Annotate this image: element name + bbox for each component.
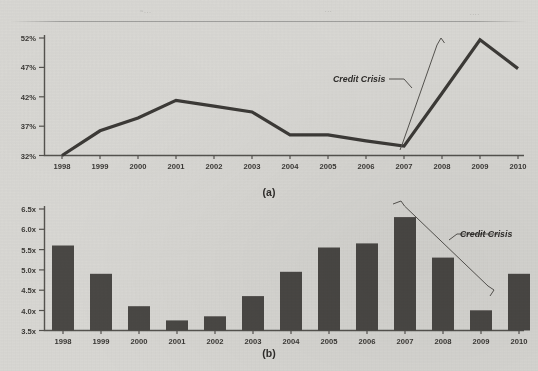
x-tick-label-b-2005: 2005 <box>321 337 339 346</box>
bar-2008 <box>432 258 454 331</box>
x-tick-label-a-1998: 1998 <box>54 162 71 171</box>
y-axis-labels-b: 6.5x 6.0x 5.5x 5.0x 4.5x 4.0x 3.5x <box>21 205 37 336</box>
x-tick-label-b-2008: 2008 <box>435 337 452 346</box>
x-tick-label-b-1999: 1999 <box>93 337 110 346</box>
y-tick-label-a-32: 32% <box>21 152 36 161</box>
bar-1999 <box>90 274 112 331</box>
x-tick-label-a-2000: 2000 <box>130 162 147 171</box>
x-tick-label-a-2004: 2004 <box>282 162 300 171</box>
scan-artifact-1: ~... <box>140 8 152 14</box>
credit-crisis-label-a: Credit Crisis <box>333 74 385 84</box>
bar-2002 <box>204 316 226 330</box>
bar-2009 <box>470 310 492 330</box>
chart-panel-a: 52% 47% 42% 37% 32% 1998 1999 2000 <box>0 22 538 186</box>
bar-2001 <box>166 320 188 330</box>
credit-crisis-label-b: Credit Crisis <box>460 229 512 239</box>
data-line-series-a <box>62 40 518 156</box>
y-tick-label-b-40: 4.0x <box>21 307 37 316</box>
bar-chart-b: 6.5x 6.0x 5.5x 5.0x 4.5x 4.0x 3.5x <box>0 190 538 350</box>
y-tick-label-b-45: 4.5x <box>21 286 37 295</box>
axis-lines-a <box>45 35 525 156</box>
x-axis-labels-b: 1998 1999 2000 2001 2002 2003 2004 2005 … <box>55 337 528 346</box>
chart-panel-b: 6.5x 6.0x 5.5x 5.0x 4.5x 4.0x 3.5x <box>0 190 538 371</box>
credit-crisis-annotation-a: Credit Crisis <box>333 38 445 150</box>
x-tick-label-b-1998: 1998 <box>55 337 72 346</box>
y-axis-ticks-a <box>39 38 45 156</box>
x-tick-label-a-2009: 2009 <box>472 162 489 171</box>
line-chart-a: 52% 47% 42% 37% 32% 1998 1999 2000 <box>0 22 538 186</box>
y-tick-label-b-35: 3.5x <box>21 327 37 336</box>
y-tick-label-a-47: 47% <box>21 63 36 72</box>
x-tick-label-b-2002: 2002 <box>207 337 224 346</box>
bar-2005 <box>318 248 340 331</box>
y-tick-label-a-42: 42% <box>21 93 36 102</box>
bar-2000 <box>128 306 150 330</box>
x-tick-label-b-2003: 2003 <box>245 337 262 346</box>
x-tick-label-a-2008: 2008 <box>434 162 451 171</box>
y-tick-label-b-55: 5.5x <box>21 246 37 255</box>
bar-1998 <box>52 246 74 331</box>
x-axis-labels-a: 1998 1999 2000 2001 2002 2003 2004 2005 … <box>54 162 527 171</box>
x-tick-label-b-2007: 2007 <box>397 337 414 346</box>
y-tick-label-b-60: 6.0x <box>21 225 37 234</box>
x-tick-label-b-2004: 2004 <box>283 337 301 346</box>
x-tick-label-b-2010: 2010 <box>511 337 528 346</box>
y-axis-labels-a: 52% 47% 42% 37% 32% <box>21 34 36 161</box>
y-tick-label-a-37: 37% <box>21 122 36 131</box>
bar-2003 <box>242 296 264 330</box>
x-tick-label-a-1999: 1999 <box>92 162 109 171</box>
y-tick-label-b-65: 6.5x <box>21 205 37 214</box>
scan-artifact-2: ... <box>325 7 333 13</box>
x-tick-label-a-2001: 2001 <box>168 162 186 171</box>
x-tick-label-b-2001: 2001 <box>169 337 187 346</box>
x-tick-label-a-2010: 2010 <box>510 162 527 171</box>
panel-label-b: (b) <box>0 347 538 359</box>
scan-artifact-3: .... <box>470 10 480 16</box>
y-tick-label-a-52: 52% <box>21 34 36 43</box>
x-tick-label-a-2006: 2006 <box>358 162 375 171</box>
bar-2004 <box>280 272 302 331</box>
x-tick-label-a-2002: 2002 <box>206 162 223 171</box>
y-axis-ticks-b <box>39 209 45 331</box>
scan-edge-line <box>10 21 528 22</box>
x-tick-label-a-2005: 2005 <box>320 162 338 171</box>
x-tick-label-b-2009: 2009 <box>473 337 490 346</box>
x-tick-label-b-2006: 2006 <box>359 337 376 346</box>
x-tick-label-a-2007: 2007 <box>396 162 413 171</box>
x-tick-label-a-2003: 2003 <box>244 162 261 171</box>
bar-2006 <box>356 243 378 330</box>
bar-2010 <box>508 274 530 331</box>
bar-2007 <box>394 217 416 330</box>
x-tick-label-b-2000: 2000 <box>131 337 148 346</box>
y-tick-label-b-50: 5.0x <box>21 266 37 275</box>
